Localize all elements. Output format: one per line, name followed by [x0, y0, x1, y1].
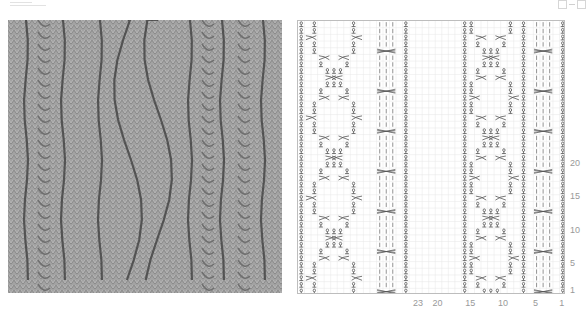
twisted-stitch-symbol [299, 249, 303, 254]
twisted-stitch-symbol [508, 182, 512, 187]
row-number-label: 1 [570, 285, 575, 295]
twisted-stitch-symbol [482, 129, 486, 134]
twisted-stitch-symbol [325, 242, 329, 247]
twisted-stitch-symbol [299, 28, 303, 33]
twisted-stitch-symbol [522, 75, 526, 80]
twisted-stitch-symbol [463, 95, 467, 100]
twisted-stitch-symbol [495, 129, 499, 134]
twisted-stitch-symbol [476, 122, 480, 127]
twisted-stitch-symbol [404, 109, 408, 114]
twisted-stitch-symbol [404, 256, 408, 261]
twisted-stitch-symbol [508, 82, 512, 87]
twisted-stitch-symbol [299, 115, 303, 120]
twisted-stitch-symbol [463, 175, 467, 180]
twisted-stitch-symbol [299, 195, 303, 200]
twisted-stitch-symbol [508, 242, 512, 247]
twisted-stitch-symbol [352, 189, 356, 194]
twisted-stitch-symbol [352, 42, 356, 47]
twisted-stitch-symbol [463, 195, 467, 200]
twisted-stitch-symbol [561, 42, 565, 47]
twisted-stitch-symbol [352, 28, 356, 33]
twisted-stitch-symbol [561, 189, 565, 194]
twisted-stitch-symbol [312, 269, 316, 274]
twisted-stitch-symbol [561, 55, 565, 60]
twisted-stitch-symbol [463, 22, 467, 27]
twisted-stitch-symbol [299, 282, 303, 287]
column-number-label: 5 [533, 298, 538, 308]
twisted-stitch-symbol [312, 282, 316, 287]
twisted-stitch-symbol [325, 149, 329, 154]
twisted-stitch-symbol [476, 282, 480, 287]
twisted-stitch-symbol [345, 222, 349, 227]
twisted-stitch-symbol [508, 169, 512, 174]
twisted-stitch-symbol [522, 256, 526, 261]
twisted-stitch-symbol [522, 155, 526, 160]
twisted-stitch-symbol [345, 62, 349, 67]
twisted-stitch-symbol [522, 135, 526, 140]
twisted-stitch-symbol [489, 209, 493, 214]
twisted-stitch-symbol [463, 35, 467, 40]
twisted-stitch-symbol [345, 142, 349, 147]
twisted-stitch-symbol [299, 276, 303, 281]
twisted-stitch-symbol [522, 209, 526, 214]
twisted-stitch-symbol [522, 242, 526, 247]
dash-icon [569, 4, 575, 5]
twisted-stitch-symbol [502, 122, 506, 127]
twisted-stitch-symbol [522, 62, 526, 67]
twisted-stitch-symbol [352, 289, 356, 294]
twisted-stitch-symbol [469, 242, 473, 247]
twisted-stitch-symbol [404, 62, 408, 67]
twisted-stitch-symbol [319, 62, 323, 67]
twisted-stitch-symbol [469, 82, 473, 87]
twisted-stitch-symbol [299, 122, 303, 127]
twisted-stitch-symbol [469, 162, 473, 167]
twisted-stitch-symbol [299, 75, 303, 80]
twisted-stitch-symbol [522, 82, 526, 87]
column-number-label: 23 [413, 298, 423, 308]
twisted-stitch-symbol [299, 202, 303, 207]
twisted-stitch-symbol [561, 242, 565, 247]
twisted-stitch-symbol [352, 209, 356, 214]
twisted-stitch-symbol [489, 142, 493, 147]
twisted-stitch-symbol [561, 82, 565, 87]
twisted-stitch-symbol [482, 289, 486, 294]
twisted-stitch-symbol [522, 216, 526, 221]
twisted-stitch-symbol [338, 149, 342, 154]
twisted-stitch-symbol [561, 135, 565, 140]
twisted-stitch-symbol [332, 162, 336, 167]
twisted-stitch-symbol [561, 195, 565, 200]
twisted-stitch-symbol [469, 182, 473, 187]
twisted-stitch-symbol [404, 169, 408, 174]
twisted-stitch-symbol [404, 35, 408, 40]
twisted-stitch-symbol [404, 289, 408, 294]
twisted-stitch-symbol [463, 62, 467, 67]
twisted-stitch-symbol [463, 89, 467, 94]
twisted-stitch-symbol [469, 269, 473, 274]
column-number-label: 15 [465, 298, 475, 308]
twisted-stitch-symbol [522, 129, 526, 134]
twisted-stitch-symbol [522, 109, 526, 114]
twisted-stitch-symbol [299, 102, 303, 107]
twisted-stitch-symbol [299, 109, 303, 114]
twisted-stitch-symbol [502, 202, 506, 207]
twisted-stitch-symbol [463, 102, 467, 107]
knitting-chart [297, 20, 565, 294]
twisted-stitch-symbol [476, 229, 480, 234]
twisted-stitch-symbol [299, 162, 303, 167]
twisted-stitch-symbol [561, 169, 565, 174]
twisted-stitch-symbol [463, 149, 467, 154]
twisted-stitch-symbol [299, 262, 303, 267]
twisted-stitch-symbol [463, 122, 467, 127]
twisted-stitch-symbol [482, 222, 486, 227]
twisted-stitch-symbol [352, 262, 356, 267]
twisted-stitch-symbol [561, 22, 565, 27]
twisted-stitch-symbol [508, 89, 512, 94]
twisted-stitch-symbol [508, 162, 512, 167]
twisted-stitch-symbol [463, 109, 467, 114]
twisted-stitch-symbol [312, 289, 316, 294]
twisted-stitch-symbol [561, 229, 565, 234]
twisted-stitch-symbol [522, 175, 526, 180]
twisted-stitch-symbol [561, 209, 565, 214]
twisted-stitch-symbol [561, 269, 565, 274]
twisted-stitch-symbol [522, 115, 526, 120]
